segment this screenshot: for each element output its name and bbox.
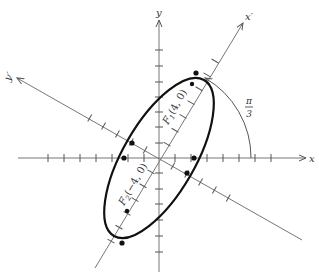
y-prime-axis-label: y′ bbox=[1, 70, 15, 84]
y-axis-label: y bbox=[155, 7, 162, 18]
vertex-lower bbox=[119, 240, 124, 245]
svg-text:π: π bbox=[245, 96, 253, 106]
x-prime-axis bbox=[95, 23, 243, 268]
svg-text:3: 3 bbox=[246, 109, 252, 119]
minor-vertex-right bbox=[184, 170, 189, 175]
vertex-upper bbox=[193, 70, 198, 75]
rotation-angle-label: π 3 bbox=[245, 96, 253, 119]
focus-f1 bbox=[190, 82, 194, 86]
focus-f2 bbox=[125, 209, 129, 213]
rotated-ellipse-diagram: x y bbox=[0, 0, 319, 273]
y-axis bbox=[155, 20, 163, 272]
x-axis-label: x bbox=[309, 153, 315, 164]
minor-vertex-left bbox=[129, 140, 134, 145]
x-intercept-right bbox=[191, 155, 196, 160]
x-prime-axis-label: x′ bbox=[245, 11, 254, 22]
x-intercept-left bbox=[121, 155, 126, 160]
